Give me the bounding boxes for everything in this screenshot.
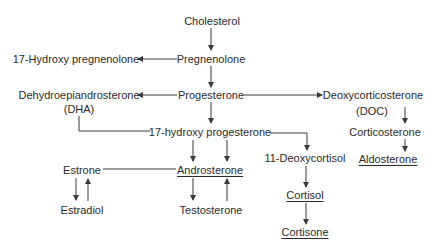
node-17-hydroxy-progesterone: 17-hydroxy progesterone [149,126,271,138]
node-cholesterol: Cholesterol [184,15,240,27]
node-11-deoxycortisol: 11-Deoxycortisol [264,152,345,164]
node-doc-abbrev: (DOC) [356,105,388,117]
node-estradiol: Estradiol [61,204,104,216]
steroid-pathway-diagram: Cholesterol Pregnenolone 17-Hydroxy preg… [0,0,434,248]
node-cortisone: Cortisone [281,226,328,238]
node-androsterone: Androsterone [177,164,243,176]
node-progesterone: Progesterone [178,89,244,101]
edge-hydroxyprogesterone-deoxycortisol [270,133,307,150]
node-deoxycorticosterone: Deoxycorticosterone [323,89,423,101]
node-pregnenolone: Pregnenolone [177,53,246,65]
node-corticosterone: Corticosterone [349,126,421,138]
node-estrone: Estrone [63,164,101,176]
node-cortisol: Cortisol [286,189,323,201]
node-17-hydroxy-pregnenolone: 17-Hydroxy pregnenolone [13,53,140,65]
node-aldosterone: Aldosterone [359,153,418,165]
node-dha-abbrev: (DHA) [64,103,95,115]
node-dehydroepiandrosterone: Dehydroepiandrosterone [18,89,139,101]
node-testosterone: Testosterone [180,204,243,216]
edge-dha-hydroxyprogesterone [79,116,150,131]
